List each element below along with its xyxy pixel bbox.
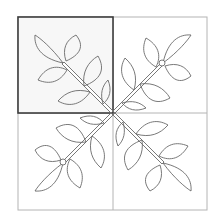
quilt-block-diagram <box>0 0 216 223</box>
branch-bottom-left <box>35 113 113 191</box>
stem-knot-icon <box>159 60 165 66</box>
branch-bottom-right <box>113 113 191 191</box>
branch-top-right <box>113 35 191 113</box>
stem-knot-icon <box>60 159 66 165</box>
